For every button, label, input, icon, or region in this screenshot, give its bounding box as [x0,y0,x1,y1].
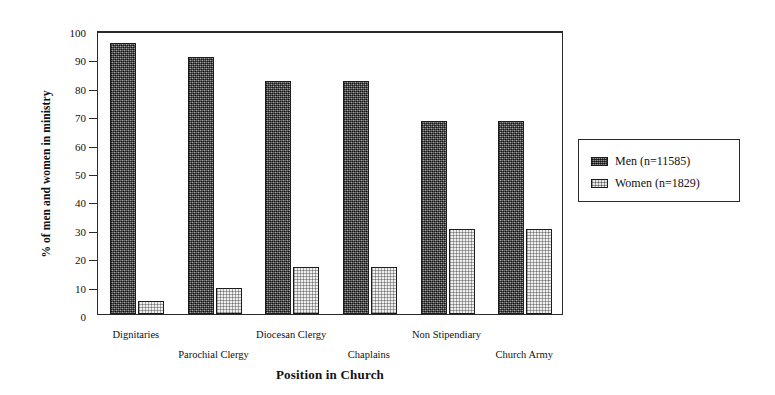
y-tick-mark [89,175,98,176]
bar-group [188,30,242,314]
bar-women [449,229,475,314]
bar-women [526,229,552,314]
x-tick-label: Chaplains [348,350,390,361]
legend-label-men: Men (n=11585) [615,155,690,167]
x-tick-label: Church Army [495,350,552,361]
x-axis-title: Position in Church [97,367,563,383]
y-tick-label: 10 [75,283,86,294]
chart-legend: Men (n=11585) Women (n=1829) [578,139,740,202]
bar-women [216,288,242,314]
y-tick-mark [89,203,98,204]
legend-swatch-women-icon [591,179,608,188]
bar-men [498,121,524,314]
bar-chart-figure: % of men and women in ministry 010203040… [0,0,775,395]
y-tick-mark [89,260,98,261]
y-tick-label: 70 [75,113,86,124]
x-tick-label: Diocesan Clergy [256,330,326,341]
y-tick-label: 50 [75,170,86,181]
bar-women [293,267,319,314]
x-tick-label: Dignitaries [113,330,160,341]
bar-group [265,30,319,314]
y-tick-label: 80 [75,84,86,95]
x-tick-label: Parochial Clergy [178,350,249,361]
bar-group [343,30,397,314]
bar-men [188,57,214,314]
y-tick-label: 90 [75,56,86,67]
y-tick-label: 20 [75,255,86,266]
y-tick-mark [89,90,98,91]
bar-women [138,301,164,314]
y-tick-mark [89,289,98,290]
y-tick-label: 60 [75,141,86,152]
legend-item-women: Women (n=1829) [591,177,700,189]
bar-men [343,81,369,314]
y-tick-mark [89,232,98,233]
y-axis-title: % of men and women in ministry [40,44,52,304]
y-tick-label: 0 [81,312,87,323]
y-tick-label: 30 [75,226,86,237]
y-tick-label: 100 [70,28,87,39]
bar-group [421,30,475,314]
bar-men [265,81,291,314]
bar-group [498,30,552,314]
y-tick-label: 40 [75,198,86,209]
y-tick-mark [89,118,98,119]
bar-group [110,30,164,314]
x-tick-label: Non Stipendiary [412,330,481,341]
legend-label-women: Women (n=1829) [615,177,700,189]
legend-item-men: Men (n=11585) [591,155,690,167]
plot-area: 0102030405060708090100 [97,31,563,315]
bar-women [371,267,397,314]
bar-men [110,43,136,314]
bar-men [421,121,447,314]
legend-swatch-men-icon [591,157,608,166]
y-tick-mark [89,61,98,62]
y-tick-mark [89,147,98,148]
